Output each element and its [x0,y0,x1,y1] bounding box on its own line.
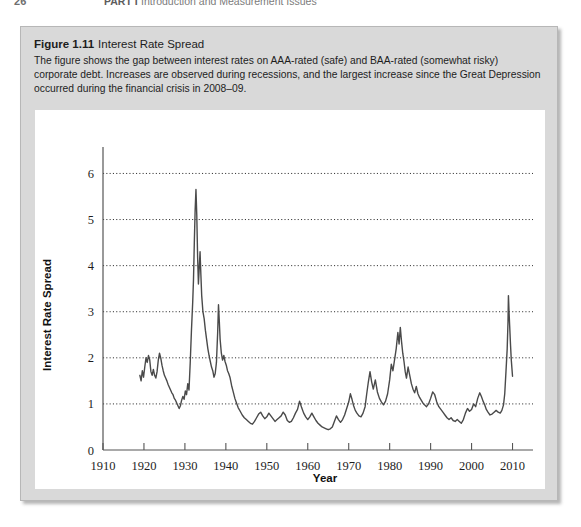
y-tick-label-1: 1 [88,397,94,411]
x-tick-label-1910: 1910 [91,459,116,473]
page-number: 26 [14,0,27,7]
y-tick-label-6: 6 [88,167,94,181]
interest-rate-spread-chart: 1910192019301940195019601970198019902000… [35,110,545,489]
textbook-page: 26 PART I Introduction and Measurement I… [0,0,581,527]
x-tick-label-1970: 1970 [336,459,361,473]
x-tick-label-1930: 1930 [172,459,197,473]
y-tick-label-5: 5 [88,213,94,227]
x-tick-label-2000: 2000 [459,459,484,473]
x-tick-label-1920: 1920 [131,459,156,473]
y-tick-label-4: 4 [88,259,95,273]
y-tick-label-2: 2 [88,351,94,365]
y-tick-label-0: 0 [88,444,94,458]
figure-caption: Figure 1.11Interest Rate Spread The figu… [34,38,546,97]
y-axis-title: Interest Rate Spread [41,259,53,371]
x-axis-title: Year [313,472,338,484]
x-tick-label-1950: 1950 [254,459,279,473]
data-series [140,190,513,430]
figure-title: Interest Rate Spread [98,38,204,50]
x-tick-label-1990: 1990 [418,459,443,473]
axes [103,147,533,450]
chart-panel: 1910192019301940195019601970198019902000… [35,110,545,489]
running-head: 26 PART I Introduction and Measurement I… [0,0,581,11]
figure-container: Figure 1.11Interest Rate Spread The figu… [20,26,558,501]
running-head-part-label: PART I [104,0,138,7]
y-tick-label-3: 3 [88,305,94,319]
x-tick-label-2010: 2010 [500,459,525,473]
figure-caption-heading: Figure 1.11Interest Rate Spread [34,38,546,50]
x-tick-label-1980: 1980 [377,459,402,473]
figure-number: Figure 1.11 [34,38,94,50]
axis-ticks [103,443,513,450]
figure-caption-text: The figure shows the gap between interes… [34,54,542,97]
series-line-0 [140,190,513,430]
x-tick-label-1940: 1940 [213,459,238,473]
axis-tick-labels: 1910192019301940195019601970198019902000… [88,167,525,473]
x-tick-label-1960: 1960 [295,459,320,473]
running-head-part-title: Introduction and Measurement Issues [141,0,317,7]
gridlines [103,173,533,403]
